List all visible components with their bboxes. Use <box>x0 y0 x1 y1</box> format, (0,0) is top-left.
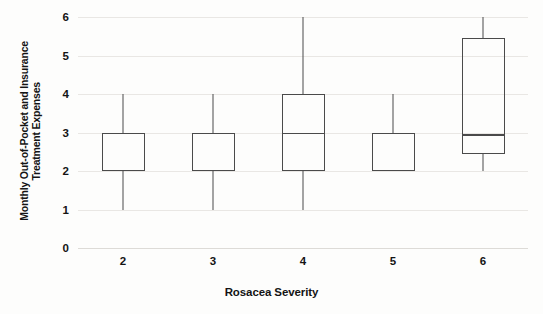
box-plot-3 <box>192 17 235 248</box>
y-tick-label-4: 4 <box>49 88 69 100</box>
box-plot-4 <box>282 17 325 248</box>
box-plot-2 <box>102 17 145 248</box>
box-plot-figure: Monthly Out-of-Pocket and Insurance Trea… <box>0 0 543 314</box>
lower-whisker-3 <box>213 171 214 210</box>
y-axis-title-line-1: Monthly Out-of-Pocket and Insurance <box>19 41 30 221</box>
box-rect-5 <box>372 133 415 172</box>
lower-whisker-4 <box>303 171 304 210</box>
gridline-0 <box>78 248 528 249</box>
median-line-4 <box>282 133 325 134</box>
lower-whisker-2 <box>123 171 124 210</box>
x-tick-label-5: 5 <box>373 255 413 267</box>
y-tick-label-1: 1 <box>49 204 69 216</box>
lower-whisker-6 <box>483 154 484 171</box>
upper-whisker-3 <box>213 94 214 133</box>
y-tick-label-5: 5 <box>49 50 69 62</box>
x-axis-title: Rosacea Severity <box>0 286 543 298</box>
box-plot-6 <box>462 17 505 248</box>
median-line-6 <box>462 134 505 135</box>
box-rect-6 <box>462 38 505 154</box>
x-tick-label-6: 6 <box>463 255 503 267</box>
y-axis-title-line-2: Treatment Expenses <box>31 82 42 181</box>
x-tick-label-4: 4 <box>283 255 323 267</box>
box-rect-3 <box>192 133 235 172</box>
y-axis-title: Monthly Out-of-Pocket and Insurance Trea… <box>8 0 52 262</box>
x-tick-label-3: 3 <box>193 255 233 267</box>
y-tick-label-2: 2 <box>49 165 69 177</box>
upper-whisker-4 <box>303 17 304 94</box>
box-plot-5 <box>372 17 415 248</box>
upper-whisker-5 <box>393 94 394 133</box>
upper-whisker-2 <box>123 94 124 133</box>
y-tick-label-3: 3 <box>49 127 69 139</box>
plot-area <box>78 17 528 248</box>
x-tick-label-2: 2 <box>103 255 143 267</box>
box-rect-2 <box>102 133 145 172</box>
y-tick-label-0: 0 <box>49 242 69 254</box>
y-tick-label-6: 6 <box>49 11 69 23</box>
upper-whisker-6 <box>483 17 484 38</box>
